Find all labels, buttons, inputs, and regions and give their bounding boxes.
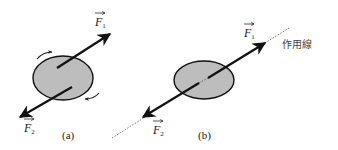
vector-arrow-icon [244, 22, 255, 26]
vector-arrow-icon [24, 117, 35, 121]
line-of-action-lower [112, 117, 145, 138]
rotation-arrow-lower-right-icon [85, 93, 99, 99]
vector-arrow-icon [95, 11, 106, 15]
force-arrow-f2-b [143, 83, 199, 117]
label-f1-b: F1 [244, 26, 255, 41]
line-of-action-label: 作用線 [282, 36, 312, 51]
figure: F1 F2 (a) F1 F2 作用線 (b) [0, 0, 338, 150]
caption-b: (b) [198, 129, 211, 141]
label-f1-a: F1 [95, 15, 106, 30]
diagram-canvas [0, 0, 338, 150]
force-arrow-f1-b [208, 43, 265, 78]
vector-arrow-icon [153, 119, 164, 123]
panel-b [112, 28, 289, 138]
label-f2-a: F2 [24, 121, 35, 136]
label-f2-b: F2 [153, 123, 164, 138]
caption-a: (a) [62, 129, 74, 141]
panel-a [20, 34, 110, 117]
